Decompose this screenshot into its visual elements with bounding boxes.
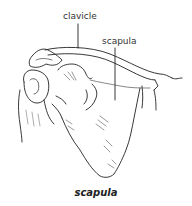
scapula-bone [62,88,140,177]
clavicle-bone [45,47,172,78]
scapula-label: scapula [102,37,137,46]
coracoid [58,64,92,79]
shoulder-illustration: clavicle scapula scapula [0,0,192,206]
figure-caption: scapula [0,187,192,198]
clavicle-label: clavicle [63,12,97,21]
humeral-head [23,70,48,103]
